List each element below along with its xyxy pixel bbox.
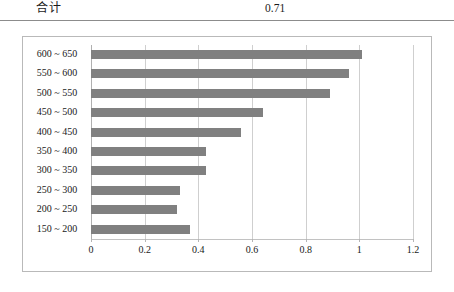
- summary-row: 合计 0.71: [0, 0, 454, 22]
- x-axis-tick-label: 0.6: [246, 243, 259, 257]
- bar-row: [91, 103, 413, 122]
- gridline: [413, 45, 414, 239]
- x-axis-tick-label: 0.4: [192, 243, 205, 257]
- summary-divider: [0, 20, 454, 21]
- y-axis-category-label: 600 ~ 650: [25, 48, 89, 60]
- x-axis-tick-labels: 00.20.40.60.811.2: [23, 243, 433, 259]
- bar-row: [91, 161, 413, 180]
- x-axis-tick-label: 0: [89, 243, 94, 257]
- y-axis-category-label: 450 ~ 500: [25, 106, 89, 118]
- bar: [91, 205, 177, 214]
- bar: [91, 89, 330, 98]
- x-axis-tick: [306, 239, 307, 242]
- x-axis-tick: [145, 239, 146, 242]
- bar: [91, 128, 241, 137]
- bar: [91, 186, 180, 195]
- bar-row: [91, 64, 413, 83]
- bar: [91, 166, 206, 175]
- bar: [91, 147, 206, 156]
- bar-row: [91, 45, 413, 64]
- x-axis-tick-label: 1: [357, 243, 362, 257]
- x-axis-tick-label: 0.2: [138, 243, 151, 257]
- bar-row: [91, 142, 413, 161]
- y-axis-category-label: 300 ~ 350: [25, 164, 89, 176]
- x-axis-tick-label: 1.2: [407, 243, 420, 257]
- summary-label: 合计: [36, 1, 61, 16]
- bar-row: [91, 123, 413, 142]
- y-axis-category-label: 400 ~ 450: [25, 126, 89, 138]
- y-axis-category-label: 500 ~ 550: [25, 87, 89, 99]
- bar-row: [91, 181, 413, 200]
- x-axis-tick: [252, 239, 253, 242]
- bar: [91, 225, 190, 234]
- bar-chart: 600 ~ 650550 ~ 600500 ~ 550450 ~ 500400 …: [22, 36, 432, 272]
- y-axis-category-label: 200 ~ 250: [25, 203, 89, 215]
- y-axis-category-label: 550 ~ 600: [25, 67, 89, 79]
- x-axis-tick: [91, 239, 92, 242]
- y-axis-category-labels: 600 ~ 650550 ~ 600500 ~ 550450 ~ 500400 …: [23, 45, 89, 239]
- bar: [91, 69, 349, 78]
- x-axis-tick: [359, 239, 360, 242]
- y-axis-category-label: 350 ~ 400: [25, 145, 89, 157]
- bar-row: [91, 200, 413, 219]
- x-axis-tick: [413, 239, 414, 242]
- bar: [91, 108, 263, 117]
- x-axis-tick: [198, 239, 199, 242]
- summary-value: 0.71: [265, 1, 285, 16]
- bar: [91, 50, 362, 59]
- y-axis-category-label: 250 ~ 300: [25, 184, 89, 196]
- plot-area: [91, 45, 413, 239]
- y-axis-category-label: 150 ~ 200: [25, 223, 89, 235]
- x-axis-tick-label: 0.8: [299, 243, 312, 257]
- bar-row: [91, 84, 413, 103]
- bar-row: [91, 220, 413, 239]
